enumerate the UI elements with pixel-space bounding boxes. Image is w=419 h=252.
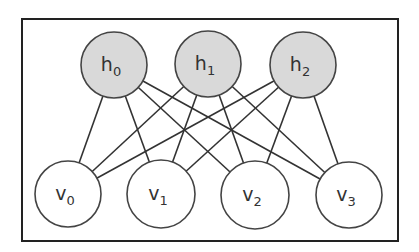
node-v2: v2 — [221, 161, 289, 229]
node-h2: h2 — [270, 32, 336, 98]
node-v3: v3 — [316, 162, 382, 228]
node-v1: v1 — [127, 160, 195, 228]
node-v0: v0 — [35, 161, 101, 227]
node-h1: h1 — [175, 31, 241, 97]
node-h0: h0 — [81, 32, 147, 98]
hidden-layer: h0h1h2 — [81, 31, 336, 98]
rbm-diagram: h0h1h2 v0v1v2v3 — [0, 0, 419, 252]
